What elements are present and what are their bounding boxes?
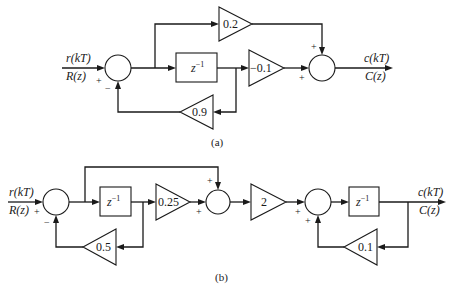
input-time-label-a: r(kT) — [66, 51, 91, 65]
sign-b-sum1-feedback: − — [44, 217, 50, 228]
arrow-icon — [215, 182, 221, 190]
arrow-icon — [35, 199, 43, 205]
arrow-icon — [211, 21, 219, 27]
summing-junction-a1 — [105, 55, 131, 81]
block-diagrams: r(kT) R(z) + − 0.2 + z−1 −0.1 + — [0, 0, 455, 288]
arrow-icon — [148, 199, 156, 205]
arrow-icon — [315, 215, 321, 223]
input-z-label-b: R(z) — [8, 203, 29, 217]
diagram-b: r(kT) R(z) + − + z−1 0.25 + 2 — [8, 167, 446, 284]
arrow-icon — [377, 244, 385, 250]
wire — [217, 68, 236, 112]
sign-a-sum2-top: + — [311, 41, 317, 52]
gain-label-a-feedback: 0.9 — [192, 105, 207, 119]
gain-label-a-forward: −0.1 — [250, 61, 272, 75]
wire — [381, 202, 408, 247]
sign-b-sum2-left: + — [196, 206, 202, 217]
gain-label-b-stage2-feedback: 0.1 — [358, 240, 373, 254]
output-time-label-b: c(kT) — [418, 185, 443, 199]
arrow-icon — [243, 199, 251, 205]
summing-junction-b1 — [43, 189, 69, 215]
sign-b-sum2-top: + — [207, 175, 213, 186]
sign-a-sum2-left: + — [299, 72, 305, 83]
output-time-label-a: c(kT) — [364, 51, 389, 65]
summing-junction-a2 — [309, 55, 335, 81]
output-z-label-a: C(z) — [365, 69, 386, 83]
arrow-icon — [116, 244, 124, 250]
wire — [118, 85, 180, 112]
caption-a: (a) — [211, 136, 224, 149]
arrow-icon — [297, 199, 305, 205]
diagram-a: r(kT) R(z) + − 0.2 + z−1 −0.1 + — [62, 7, 393, 149]
arrow-icon — [385, 65, 393, 71]
arrow-icon — [97, 65, 105, 71]
output-z-label-b: C(z) — [419, 203, 440, 217]
sign-b-sum1-input: + — [34, 206, 40, 217]
arrow-icon — [198, 199, 206, 205]
input-z-label-a: R(z) — [65, 69, 86, 83]
sign-a-sum1-input: + — [96, 75, 102, 86]
arrow-icon — [115, 81, 121, 89]
gain-label-b-stage1-feedback: 0.5 — [96, 240, 111, 254]
sign-a-sum1-feedback: − — [105, 83, 111, 94]
caption-b: (b) — [215, 271, 228, 284]
gain-label-b-middle: 2 — [261, 195, 267, 209]
wire — [318, 219, 344, 247]
arrow-icon — [319, 47, 325, 55]
gain-label-b-stage1-forward: 0.25 — [158, 195, 179, 209]
summing-junction-b2 — [206, 190, 230, 214]
sign-b-sum3-bottom: + — [305, 215, 311, 226]
sign-b-sum3-left: + — [295, 206, 301, 217]
arrow-icon — [168, 65, 176, 71]
arrow-icon — [53, 215, 59, 223]
gain-block-b-middle — [251, 184, 286, 220]
arrow-icon — [241, 65, 249, 71]
arrow-icon — [301, 65, 309, 71]
summing-junction-b3 — [305, 189, 331, 215]
gain-label-a-feedforward: 0.2 — [223, 17, 238, 31]
arrow-icon — [92, 199, 100, 205]
input-time-label-b: r(kT) — [9, 185, 34, 199]
arrow-icon — [213, 109, 221, 115]
wire — [56, 219, 83, 247]
arrow-icon — [341, 199, 349, 205]
